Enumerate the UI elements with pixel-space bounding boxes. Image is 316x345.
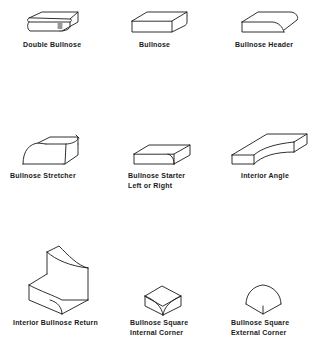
label-line: Double Bullnose xyxy=(23,40,81,50)
label-line: Bullnose Starter xyxy=(128,171,185,181)
label-line: Bullnose xyxy=(139,40,170,50)
label-line: Bullnose Stretcher xyxy=(10,171,76,181)
label-line: Left or Right xyxy=(128,181,185,191)
label-bullnose-header: Bullnose Header xyxy=(235,40,293,50)
label-bullnose-starter: Bullnose Starter Left or Right xyxy=(128,171,185,191)
label-bullnose: Bullnose xyxy=(139,40,170,50)
label-bullnose-stretcher: Bullnose Stretcher xyxy=(10,171,76,181)
label-bullnose-square-external: Bullnose Square External Corner xyxy=(231,318,289,338)
label-line: Bullnose Square xyxy=(130,318,188,328)
label-bullnose-square-internal: Bullnose Square Internal Corner xyxy=(130,318,188,338)
label-line: Bullnose Header xyxy=(235,40,293,50)
label-interior-bullnose-return: Interior Bullnose Return xyxy=(13,318,98,328)
label-line: Interior Angle xyxy=(241,171,289,181)
label-line: Internal Corner xyxy=(130,328,188,338)
label-line: Bullnose Square xyxy=(231,318,289,328)
label-line: Interior Bullnose Return xyxy=(13,318,98,328)
label-interior-angle: Interior Angle xyxy=(241,171,289,181)
label-line: External Corner xyxy=(231,328,289,338)
label-double-bullnose: Double Bullnose xyxy=(23,40,81,50)
